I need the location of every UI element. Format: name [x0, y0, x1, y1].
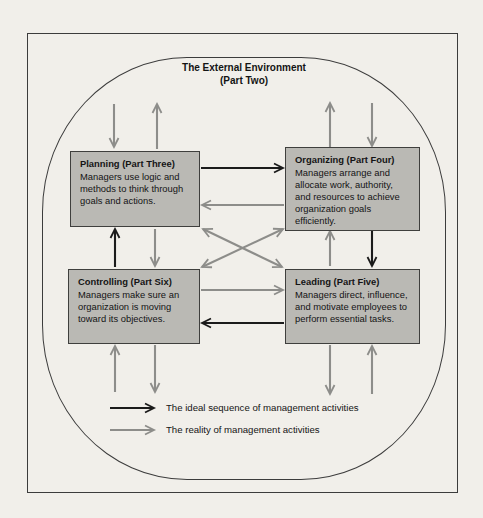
- box-controlling: Controlling (Part Six) Managers make sur…: [68, 269, 200, 344]
- arrows-layer: [0, 0, 483, 518]
- diagram-stage: The External Environment (Part Two): [0, 0, 483, 518]
- box-controlling-description: Managers make sure an organization is mo…: [78, 289, 191, 325]
- legend-reality-label: The reality of management activities: [166, 424, 320, 436]
- box-controlling-title: Controlling (Part Six): [78, 276, 191, 288]
- box-planning-title: Planning (Part Three): [80, 158, 191, 170]
- box-leading-title: Leading (Part Five): [295, 276, 411, 288]
- box-organizing-title: Organizing (Part Four): [295, 154, 411, 166]
- box-organizing-description: Managers arrange and allocate work, auth…: [295, 167, 411, 227]
- box-leading: Leading (Part Five) Managers direct, inf…: [285, 269, 420, 344]
- legend-ideal-label: The ideal sequence of management activit…: [166, 402, 359, 414]
- box-organizing: Organizing (Part Four) Managers arrange …: [285, 147, 420, 231]
- box-leading-description: Managers direct, influence, and motivate…: [295, 289, 411, 325]
- box-planning: Planning (Part Three) Managers use logic…: [70, 151, 200, 227]
- box-planning-description: Managers use logic and methods to think …: [80, 171, 191, 207]
